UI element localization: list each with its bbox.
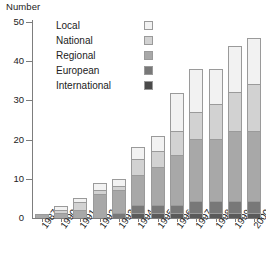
bar-1996[interactable]	[170, 93, 184, 218]
bar-1993[interactable]	[112, 179, 126, 218]
y-tick-label: 30	[0, 94, 24, 105]
bar-1994[interactable]	[131, 147, 145, 218]
legend-item-regional[interactable]: Regional	[56, 48, 186, 63]
legend-item-european[interactable]: European	[56, 63, 186, 78]
bar-segment-regional	[152, 168, 164, 207]
bar-segment-regional	[229, 132, 241, 202]
legend-swatch	[144, 66, 153, 75]
bar-segment-european	[113, 214, 125, 218]
bar-segment-international	[152, 214, 164, 218]
bar-segment-regional	[132, 176, 144, 207]
bar-segment-local	[94, 184, 106, 192]
bar-segment-regional	[210, 140, 222, 202]
legend-label: National	[56, 33, 93, 48]
bar-segment-local	[229, 47, 241, 94]
chart-legend: LocalNationalRegionalEuropeanInternation…	[56, 18, 186, 93]
bar-segment-regional	[113, 191, 125, 214]
bar-segment-regional	[94, 195, 106, 218]
bar-segment-european	[132, 206, 144, 214]
bar-segment-local	[152, 137, 164, 153]
legend-swatch	[144, 81, 153, 90]
bar-1991[interactable]	[73, 198, 87, 218]
bar-segment-regional	[171, 156, 183, 207]
bar-1987[interactable]	[35, 214, 49, 218]
bar-segment-local	[132, 148, 144, 160]
bar-segment-international	[190, 214, 202, 218]
bar-segment-international	[210, 214, 222, 218]
bar-chart: Number 01020304050 198719901991199219931…	[0, 0, 266, 265]
bar-segment-local	[113, 180, 125, 188]
bar-1992[interactable]	[93, 183, 107, 218]
legend-item-local[interactable]: Local	[56, 18, 186, 33]
bar-segment-local	[210, 70, 222, 105]
bar-segment-national	[248, 85, 260, 132]
y-axis-title: Number	[6, 1, 40, 12]
bar-segment-international	[229, 214, 241, 218]
legend-swatch	[144, 21, 153, 30]
bar-segment-european	[190, 202, 202, 214]
bar-segment-national	[171, 132, 183, 155]
bar-segment-local	[171, 94, 183, 133]
legend-swatch	[144, 51, 153, 60]
y-tick-label: 10	[0, 173, 24, 184]
bar-segment-regional	[74, 211, 86, 218]
bar-segment-european	[248, 202, 260, 214]
y-tick-label: 20	[0, 134, 24, 145]
bar-segment-national	[229, 93, 241, 132]
legend-item-international[interactable]: International	[56, 78, 186, 93]
bar-segment-regional	[248, 132, 260, 202]
bar-segment-european	[210, 202, 222, 214]
bar-segment-international	[171, 214, 183, 218]
bar-segment-european	[171, 206, 183, 214]
bar-segment-european	[229, 202, 241, 214]
bar-segment-european	[152, 206, 164, 214]
bar-segment-regional	[55, 214, 67, 218]
legend-label: Regional	[56, 48, 95, 63]
bar-segment-national	[132, 160, 144, 175]
bar-segment-regional	[190, 140, 202, 202]
bar-segment-local	[190, 70, 202, 113]
y-tick-label: 50	[0, 16, 24, 27]
legend-swatch	[144, 36, 153, 45]
legend-label: Local	[56, 18, 80, 33]
bar-2000[interactable]	[247, 38, 261, 218]
bar-segment-national	[210, 105, 222, 140]
bar-segment-international	[132, 214, 144, 218]
bar-1995[interactable]	[151, 136, 165, 218]
bar-1997[interactable]	[189, 69, 203, 218]
y-tick-label: 0	[0, 212, 24, 223]
legend-label: International	[56, 78, 111, 93]
bar-1999[interactable]	[228, 46, 242, 218]
bar-segment-international	[248, 214, 260, 218]
bar-1998[interactable]	[209, 69, 223, 218]
bar-segment-national	[190, 113, 202, 140]
bar-segment-national	[152, 152, 164, 168]
bar-segment-national	[74, 203, 86, 210]
bar-segment-regional	[36, 215, 48, 218]
legend-item-national[interactable]: National	[56, 33, 186, 48]
bar-1990[interactable]	[54, 206, 68, 218]
legend-label: European	[56, 63, 99, 78]
bar-segment-local	[248, 39, 260, 86]
y-tick-label: 40	[0, 55, 24, 66]
